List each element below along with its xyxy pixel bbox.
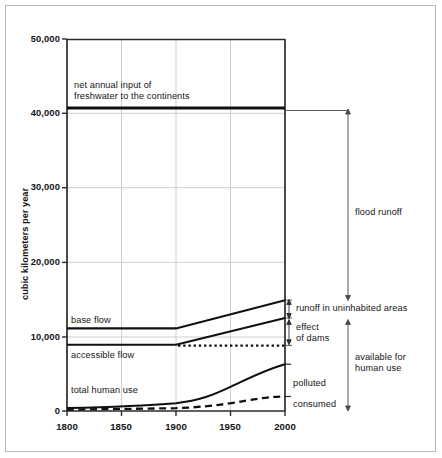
arrowhead-up-available (346, 320, 351, 325)
y-tick-label-40000: 40,000 (14, 107, 60, 118)
y-axis-title: cubic kilometers per year (20, 188, 30, 300)
x-tick-label-1900: 1900 (153, 421, 199, 432)
annotation-net-input-line1: net annual input of (74, 80, 152, 91)
arrowhead-down-available (346, 406, 351, 411)
bracket-flood-runoff (285, 109, 350, 301)
x-tick-label-1850: 1850 (98, 421, 144, 432)
y-tick-label-20000: 20,000 (14, 256, 60, 267)
arrowhead-down-dams (287, 340, 291, 345)
bracket-runoff-uninhabited (285, 300, 292, 319)
x-tick-label-2000: 2000 (262, 421, 308, 432)
bracket-available-human-use (346, 320, 351, 412)
arrowhead-up-flood (346, 109, 351, 114)
chart-page: cubic kilometers per year 50,000 40,000 … (0, 0, 442, 458)
x-tick-label-1800: 1800 (44, 421, 90, 432)
annotation-runoff-uninhabited: runoff in uninhabited areas (296, 303, 407, 314)
bracket-effect-of-dams (285, 320, 292, 346)
annotation-polluted: polluted (293, 378, 326, 389)
arrowhead-down-flood (346, 296, 351, 301)
water-flow-chart (0, 0, 442, 458)
annotation-base-flow: base flow (71, 315, 111, 326)
annotation-available-line1: available for (355, 352, 406, 363)
annotation-effect-of-dams-line2: of dams (296, 333, 329, 344)
annotation-available-line2: human use (355, 363, 401, 374)
y-tick-label-0: 0 (14, 405, 60, 416)
right-edge-separators (285, 364, 291, 396)
annotation-total-human-use: total human use (71, 385, 138, 396)
annotation-flood-runoff: flood runoff (355, 207, 402, 218)
x-tick-label-1950: 1950 (207, 421, 253, 432)
y-tick-label-10000: 10,000 (14, 331, 60, 342)
y-tick-label-30000: 30,000 (14, 181, 60, 192)
annotation-accessible-flow: accessible flow (71, 350, 134, 361)
annotation-net-input-line2: freshwater to the continents (74, 91, 190, 102)
annotation-effect-of-dams-line1: effect (296, 322, 319, 333)
arrowhead-up-dams (287, 320, 291, 325)
y-tick-label-50000: 50,000 (14, 33, 60, 44)
annotation-consumed: consumed (293, 399, 336, 410)
